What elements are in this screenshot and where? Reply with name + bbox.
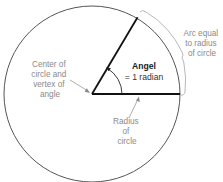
center-pointer-line [70, 80, 88, 91]
angle-arc [108, 69, 122, 95]
radian-diagram: Center of circle and vertex of angle Ang… [0, 0, 223, 182]
angle-label-value: = 1 radian [125, 72, 164, 82]
radius-pointer-line [129, 99, 138, 118]
angle-label-title: Angel [132, 61, 156, 71]
arc-label: Arc equal to radius of circle [184, 29, 221, 58]
radius-label: Radius of circle [113, 117, 141, 146]
center-label: Center of circle and vertex of angle [31, 60, 68, 99]
radius-pointer-arrowhead-icon [136, 97, 140, 103]
angled-radius [92, 17, 138, 94]
